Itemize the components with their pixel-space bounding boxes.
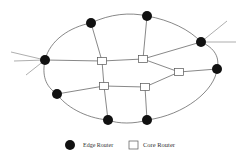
link-C2-E4 (143, 42, 201, 59)
edge-router-icon (103, 115, 113, 125)
external-link (11, 52, 45, 60)
link-E2-C1 (91, 23, 102, 61)
edge-router-icon (86, 18, 96, 28)
external-links-group (11, 21, 236, 75)
edge-router-icon (196, 37, 206, 47)
link-C1-C2 (102, 59, 143, 61)
core-router-icon (175, 69, 184, 76)
edge-router-icon (142, 11, 152, 21)
edge-routers-group (40, 11, 222, 125)
network-diagram (0, 0, 245, 163)
core-router-icon (139, 56, 148, 63)
link-C3-E5 (179, 69, 217, 72)
link-C4-C5 (104, 86, 145, 87)
network-boundary (44, 14, 218, 123)
core-router-icon (141, 84, 150, 91)
link-C5-C3 (145, 72, 179, 87)
edge-router-icon (142, 115, 152, 125)
edge-router-icon (40, 55, 50, 65)
legend-edge-router-icon (65, 140, 75, 150)
link-C4-E7 (104, 86, 108, 120)
legend-core-router-icon (129, 141, 138, 149)
link-E1-C1 (45, 60, 102, 61)
link-C2-C3 (143, 59, 179, 72)
edge-router-icon (212, 64, 222, 74)
link-E6-C4 (57, 86, 104, 94)
link-E3-C2 (143, 16, 147, 59)
legend-core-router-label: Core Router (143, 141, 175, 148)
legend-edge-router-label: Edge Router (83, 142, 113, 148)
external-link (201, 21, 227, 42)
edge-router-icon (52, 89, 62, 99)
core-router-icon (98, 58, 107, 65)
core-router-icon (100, 83, 109, 90)
links-group (45, 16, 217, 120)
